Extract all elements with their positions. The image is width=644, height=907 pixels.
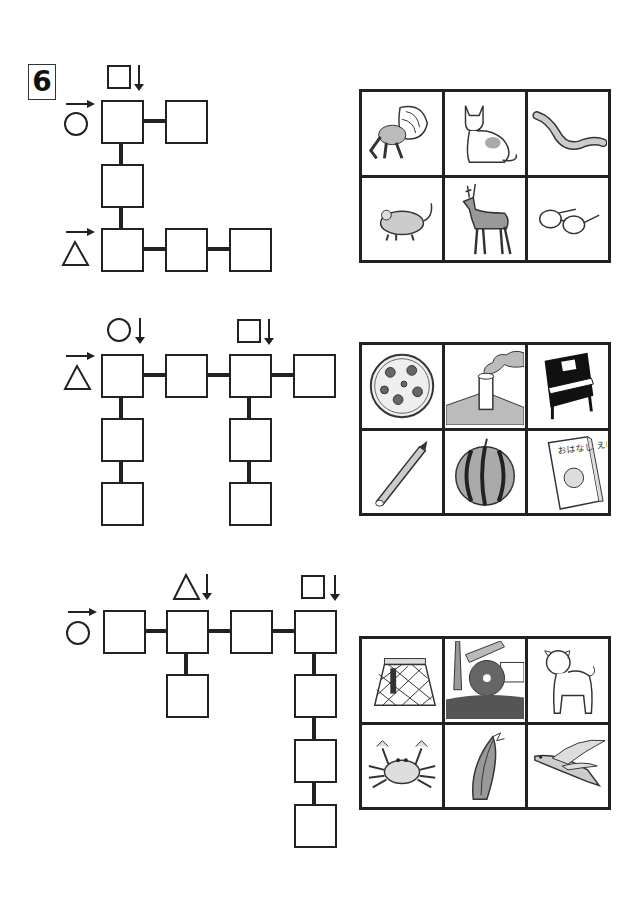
picture-water-wheel[interactable]	[445, 639, 525, 722]
connector	[141, 247, 167, 251]
picture-puppy[interactable]	[528, 639, 608, 722]
picture-pizza[interactable]	[362, 345, 442, 428]
connector	[205, 247, 231, 251]
square-down-arrow-icon	[106, 64, 146, 94]
cat-icon	[446, 94, 524, 172]
answer-box[interactable]	[294, 674, 337, 718]
square-down-arrow-icon	[236, 318, 276, 348]
deer-icon	[446, 180, 524, 258]
connector	[206, 629, 232, 633]
picture-piano[interactable]	[528, 345, 608, 428]
answer-box[interactable]	[101, 100, 144, 144]
answer-box[interactable]	[229, 228, 272, 272]
circle-down-arrow-icon	[106, 316, 148, 348]
picture-grid-1	[359, 89, 611, 263]
answer-box[interactable]	[165, 228, 208, 272]
answer-box[interactable]	[230, 610, 273, 654]
book-icon: おはなし えほん	[529, 433, 607, 511]
circle-right-arrow-icon	[60, 100, 100, 140]
triangle-down-arrow-icon	[172, 572, 214, 604]
hermit-crab-icon	[363, 94, 441, 172]
crab-icon	[363, 727, 441, 805]
square-down-arrow-icon	[300, 574, 342, 604]
answer-box[interactable]	[101, 482, 144, 526]
picture-skirt[interactable]	[362, 639, 442, 722]
picture-pencil[interactable]	[362, 431, 442, 514]
chimney-icon	[446, 347, 524, 425]
answer-box[interactable]	[294, 610, 337, 654]
answer-box[interactable]	[165, 354, 208, 398]
picture-grid-2: おはなし えほん	[359, 342, 611, 516]
connector	[143, 629, 168, 633]
answer-box[interactable]	[101, 228, 144, 272]
glasses-icon	[529, 180, 607, 258]
mouse-icon	[363, 180, 441, 258]
triangle-right-arrow-icon	[60, 228, 100, 270]
corn-icon	[446, 727, 524, 805]
connector	[119, 206, 123, 230]
watermelon-icon	[446, 433, 524, 511]
answer-box[interactable]	[101, 418, 144, 462]
connector	[205, 373, 231, 377]
answer-box[interactable]	[293, 354, 336, 398]
picture-crab[interactable]	[362, 725, 442, 808]
dog-icon	[529, 641, 607, 719]
connector	[312, 716, 316, 740]
question-number: 6	[28, 64, 56, 100]
answer-box[interactable]	[229, 482, 272, 526]
circle-right-arrow-icon	[64, 608, 104, 648]
connector	[247, 396, 251, 420]
water-wheel-icon	[446, 641, 524, 719]
answer-box[interactable]	[294, 804, 337, 848]
pencil-icon	[363, 433, 441, 511]
picture-flying-fish[interactable]	[528, 725, 608, 808]
answer-box[interactable]	[166, 610, 209, 654]
connector	[184, 652, 188, 676]
answer-box[interactable]	[229, 418, 272, 462]
connector	[119, 460, 123, 484]
answer-box[interactable]	[294, 739, 337, 783]
answer-box[interactable]	[101, 164, 144, 208]
flying-fish-icon	[529, 727, 607, 805]
picture-hermit-crab[interactable]	[362, 92, 442, 175]
worm-icon	[529, 94, 607, 172]
skirt-icon	[363, 641, 441, 719]
connector	[312, 780, 316, 806]
picture-deer[interactable]	[445, 178, 525, 261]
piano-icon	[529, 347, 607, 425]
connector	[141, 119, 167, 123]
connector	[270, 629, 296, 633]
answer-box[interactable]	[101, 354, 144, 398]
answer-box[interactable]	[229, 354, 272, 398]
answer-box[interactable]	[166, 674, 209, 718]
connector	[141, 373, 167, 377]
connector	[247, 460, 251, 484]
picture-watermelon[interactable]	[445, 431, 525, 514]
picture-worm[interactable]	[528, 92, 608, 175]
picture-chimney[interactable]	[445, 345, 525, 428]
picture-corn[interactable]	[445, 725, 525, 808]
answer-box[interactable]	[103, 610, 146, 654]
connector	[269, 373, 295, 377]
triangle-right-arrow-icon	[62, 352, 102, 394]
connector	[119, 142, 123, 166]
connector	[312, 652, 316, 676]
picture-mouse[interactable]	[362, 178, 442, 261]
picture-grid-3	[359, 636, 611, 810]
picture-glasses[interactable]	[528, 178, 608, 261]
connector	[119, 396, 123, 420]
picture-book[interactable]: おはなし えほん	[528, 431, 608, 514]
answer-box[interactable]	[165, 100, 208, 144]
picture-cat[interactable]	[445, 92, 525, 175]
pizza-icon	[363, 347, 441, 425]
